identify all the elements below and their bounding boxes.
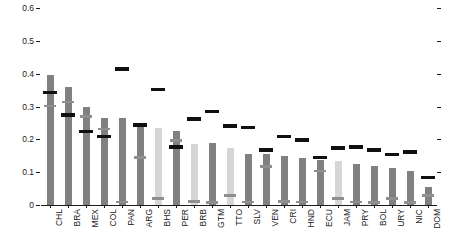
- x-axis-tick-label: TTO: [234, 209, 244, 226]
- bar: [83, 107, 90, 206]
- black-marker: [331, 146, 345, 150]
- black-marker: [313, 156, 327, 160]
- x-axis-tick-label: BHS: [162, 209, 172, 226]
- grey-marker: [332, 197, 344, 200]
- black-marker: [277, 135, 291, 139]
- bar: [65, 87, 72, 205]
- black-marker: [151, 88, 165, 92]
- grey-marker: [44, 105, 56, 108]
- bar: [317, 160, 324, 205]
- x-axis-tick-mark: [86, 205, 87, 208]
- grey-marker: [62, 101, 74, 104]
- x-axis-tick-mark: [212, 205, 213, 208]
- bar: [407, 171, 414, 205]
- y-axis-tick-label: 0.1: [6, 167, 34, 177]
- black-marker: [385, 153, 399, 157]
- black-marker: [403, 150, 417, 154]
- x-axis-tick-mark: [356, 205, 357, 208]
- x-axis-tick-label: PAN: [126, 209, 136, 226]
- black-marker: [187, 117, 201, 121]
- black-marker: [223, 124, 237, 128]
- black-marker: [169, 145, 183, 149]
- y-axis-tick-mark: [36, 139, 40, 140]
- x-axis-tick-mark: [68, 205, 69, 208]
- grey-marker: [224, 194, 236, 197]
- y-axis-tick-mark: [36, 205, 40, 206]
- x-axis-tick-label: ARG: [144, 209, 154, 227]
- y-axis-tick-mark: [36, 172, 40, 173]
- x-axis-tick-mark: [302, 205, 303, 208]
- x-axis-tick-mark: [104, 205, 105, 208]
- x-axis-tick-label: URY: [396, 209, 406, 227]
- x-axis-tick-mark: [122, 205, 123, 208]
- grey-marker: [350, 201, 362, 204]
- black-marker: [295, 138, 309, 142]
- x-axis-tick-label: NIC: [414, 209, 424, 224]
- black-marker: [43, 91, 57, 95]
- right-axis-tick-mark: [437, 139, 441, 140]
- bar: [47, 75, 54, 205]
- x-axis-tick-mark: [428, 205, 429, 208]
- y-axis-tick-label: 0.5: [6, 36, 34, 46]
- x-axis-tick-mark: [374, 205, 375, 208]
- black-marker: [241, 126, 255, 130]
- grey-marker: [260, 165, 272, 168]
- bar: [173, 131, 180, 205]
- y-axis-tick-label: 0.4: [6, 69, 34, 79]
- bar: [371, 166, 378, 205]
- bar: [353, 164, 360, 205]
- black-marker: [97, 135, 111, 139]
- x-axis-tick-mark: [284, 205, 285, 208]
- grey-marker: [80, 115, 92, 118]
- right-axis-tick-mark: [437, 107, 441, 108]
- grey-marker: [116, 201, 128, 204]
- x-axis-tick-label: COL: [108, 209, 118, 226]
- x-axis-tick-label: ECU: [324, 209, 334, 227]
- bar: [263, 154, 270, 205]
- grey-marker: [170, 139, 182, 142]
- y-axis-tick-label: 0: [6, 200, 34, 210]
- right-axis-tick-mark: [437, 41, 441, 42]
- black-marker: [61, 113, 75, 117]
- black-marker: [259, 148, 273, 152]
- grey-marker: [188, 200, 200, 203]
- x-axis-tick-mark: [338, 205, 339, 208]
- grey-marker: [98, 128, 110, 131]
- right-axis-tick-mark: [437, 172, 441, 173]
- x-axis-tick-label: BOL: [378, 209, 388, 226]
- x-axis-tick-label: VEN: [270, 209, 280, 226]
- black-marker: [133, 123, 147, 127]
- x-axis-tick-label: CRI: [288, 209, 298, 224]
- black-marker: [421, 176, 435, 180]
- x-axis-tick-label: GTM: [216, 209, 226, 228]
- black-marker: [115, 67, 129, 71]
- x-axis-tick-label: PRY: [360, 209, 370, 226]
- x-axis-tick-mark: [248, 205, 249, 208]
- grey-marker: [242, 201, 254, 204]
- black-marker: [367, 148, 381, 152]
- grey-marker: [278, 200, 290, 203]
- x-axis-tick-label: PER: [180, 209, 190, 226]
- x-axis-tick-label: HND: [306, 209, 316, 227]
- grey-marker: [368, 201, 380, 204]
- x-axis-tick-mark: [194, 205, 195, 208]
- bar: [191, 144, 198, 205]
- x-axis-tick-mark: [140, 205, 141, 208]
- black-marker: [349, 145, 363, 149]
- bar: [155, 128, 162, 205]
- grey-marker: [404, 201, 416, 204]
- bar: [119, 118, 126, 205]
- grey-marker: [386, 197, 398, 200]
- grey-marker: [422, 194, 434, 197]
- black-marker: [79, 130, 93, 134]
- x-axis-tick-label: BRB: [198, 209, 208, 226]
- x-axis-tick-mark: [50, 205, 51, 208]
- x-axis-tick-mark: [320, 205, 321, 208]
- grey-marker: [296, 201, 308, 204]
- grey-marker: [134, 156, 146, 159]
- right-axis-tick-mark: [437, 74, 441, 75]
- y-axis-tick-label: 0.6: [6, 3, 34, 13]
- x-axis-tick-mark: [158, 205, 159, 208]
- x-axis-tick-label: BRA: [72, 209, 82, 226]
- x-axis-tick-mark: [410, 205, 411, 208]
